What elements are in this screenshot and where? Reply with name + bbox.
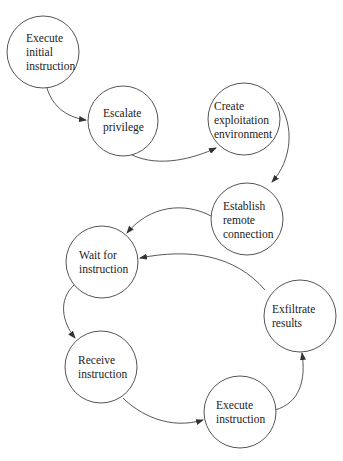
edge-exfiltrate-to-wait xyxy=(140,254,265,290)
svg-text:Exfiltrate: Exfiltrate xyxy=(272,303,315,315)
svg-text:Create: Create xyxy=(214,100,244,112)
flow-diagram: Execute initial instruction Escalate pri… xyxy=(0,0,343,461)
svg-text:instruction: instruction xyxy=(79,263,128,275)
node-receive-instruction: Receive instruction xyxy=(65,331,137,403)
node-create-exploitation-environment: Create exploitation environment xyxy=(208,83,280,155)
node-establish-remote-connection: Establish remote connection xyxy=(211,183,283,255)
svg-text:exploitation: exploitation xyxy=(214,114,269,127)
svg-text:instruction: instruction xyxy=(78,368,127,380)
node-execute-instruction: Execute instruction xyxy=(204,376,276,448)
edge-establish-to-wait xyxy=(127,208,211,233)
edge-execute-initial-to-escalate xyxy=(47,88,86,120)
svg-text:Receive: Receive xyxy=(78,354,115,366)
node-escalate-privilege: Escalate privilege xyxy=(88,86,158,156)
svg-text:privilege: privilege xyxy=(103,121,144,134)
svg-text:instruction: instruction xyxy=(216,413,265,425)
svg-text:Execute: Execute xyxy=(26,32,63,44)
svg-text:Escalate: Escalate xyxy=(103,107,141,119)
svg-text:Wait for: Wait for xyxy=(79,249,117,261)
node-exfiltrate-results: Exfiltrate results xyxy=(264,280,336,352)
svg-text:instruction: instruction xyxy=(26,60,75,72)
svg-text:Execute: Execute xyxy=(216,399,253,411)
svg-text:initial: initial xyxy=(26,46,53,58)
svg-text:environment: environment xyxy=(214,128,273,140)
svg-text:remote: remote xyxy=(223,214,255,226)
node-wait-for-instruction: Wait for instruction xyxy=(66,226,138,298)
edge-escalate-to-create-env xyxy=(132,148,216,161)
edge-execute-to-exfiltrate xyxy=(275,353,303,410)
svg-text:connection: connection xyxy=(223,228,274,240)
node-execute-initial-instruction: Execute initial instruction xyxy=(7,16,79,88)
edge-receive-to-execute xyxy=(123,398,203,423)
edge-wait-to-receive xyxy=(64,285,75,338)
svg-text:Establish: Establish xyxy=(223,200,265,212)
svg-text:results: results xyxy=(272,317,303,329)
